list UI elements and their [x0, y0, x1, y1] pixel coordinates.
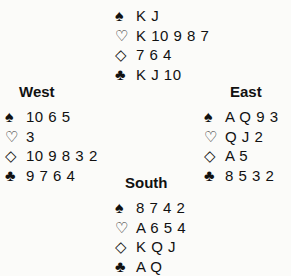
heart-icon: ♡	[204, 127, 221, 146]
west-diamonds-cards: 10 9 8 3 2	[26, 146, 98, 165]
north-spades-cards: K J	[136, 6, 159, 25]
east-hearts-cards: Q J 2	[225, 127, 263, 146]
east-diamonds-cards: A 5	[225, 146, 248, 165]
north-hand: ♠ K J ♡ K 10 9 8 7 ◇ 7 6 4 ♣ K J 10	[115, 6, 209, 84]
north-spades: ♠ K J	[115, 6, 209, 26]
north-clubs: ♣ K J 10	[115, 65, 209, 85]
west-diamonds: ◇ 10 9 8 3 2	[5, 146, 98, 166]
spade-icon: ♠	[5, 107, 22, 126]
diamond-icon: ◇	[204, 146, 221, 165]
west-label: West	[19, 83, 98, 101]
south-clubs: ♣ A Q	[115, 257, 186, 276]
club-icon: ♣	[204, 166, 221, 185]
south-hearts: ♡ A 6 5 4	[115, 218, 186, 238]
spade-icon: ♠	[115, 6, 132, 25]
east-clubs: ♣ 8 5 3 2	[204, 166, 279, 186]
south-hearts-cards: A 6 5 4	[136, 218, 186, 237]
north-diamonds: ◇ 7 6 4	[115, 45, 209, 65]
south-hand: South ♠ 8 7 4 2 ♡ A 6 5 4 ◇ K Q J ♣ A Q	[115, 174, 186, 276]
heart-icon: ♡	[115, 218, 132, 237]
west-hand: West ♠ 10 6 5 ♡ 3 ◇ 10 9 8 3 2 ♣ 9 7 6 4	[5, 83, 98, 185]
south-diamonds: ◇ K Q J	[115, 237, 186, 257]
west-hearts-cards: 3	[26, 127, 35, 146]
south-label: South	[125, 174, 186, 192]
west-spades: ♠ 10 6 5	[5, 107, 98, 127]
diamond-icon: ◇	[115, 45, 132, 64]
east-label: East	[230, 83, 279, 101]
diamond-icon: ◇	[5, 146, 22, 165]
east-hearts: ♡ Q J 2	[204, 127, 279, 147]
club-icon: ♣	[5, 166, 22, 185]
north-hearts: ♡ K 10 9 8 7	[115, 26, 209, 46]
east-diamonds: ◇ A 5	[204, 146, 279, 166]
south-spades-cards: 8 7 4 2	[136, 198, 185, 217]
east-clubs-cards: 8 5 3 2	[225, 166, 274, 185]
club-icon: ♣	[115, 65, 132, 84]
diamond-icon: ◇	[115, 237, 132, 256]
heart-icon: ♡	[115, 26, 132, 45]
west-clubs: ♣ 9 7 6 4	[5, 166, 98, 186]
east-spades-cards: A Q 9 3	[225, 107, 279, 126]
north-hearts-cards: K 10 9 8 7	[136, 26, 209, 45]
east-spades: ♠ A Q 9 3	[204, 107, 279, 127]
west-hearts: ♡ 3	[5, 127, 98, 147]
east-hand: East ♠ A Q 9 3 ♡ Q J 2 ◇ A 5 ♣ 8 5 3 2	[204, 83, 279, 185]
north-diamonds-cards: 7 6 4	[136, 45, 172, 64]
south-diamonds-cards: K Q J	[136, 237, 176, 256]
north-clubs-cards: K J 10	[136, 65, 182, 84]
south-spades: ♠ 8 7 4 2	[115, 198, 186, 218]
west-spades-cards: 10 6 5	[26, 107, 71, 126]
west-clubs-cards: 9 7 6 4	[26, 166, 75, 185]
club-icon: ♣	[115, 257, 132, 276]
spade-icon: ♠	[115, 198, 132, 217]
south-clubs-cards: A Q	[136, 257, 163, 276]
heart-icon: ♡	[5, 127, 22, 146]
spade-icon: ♠	[204, 107, 221, 126]
